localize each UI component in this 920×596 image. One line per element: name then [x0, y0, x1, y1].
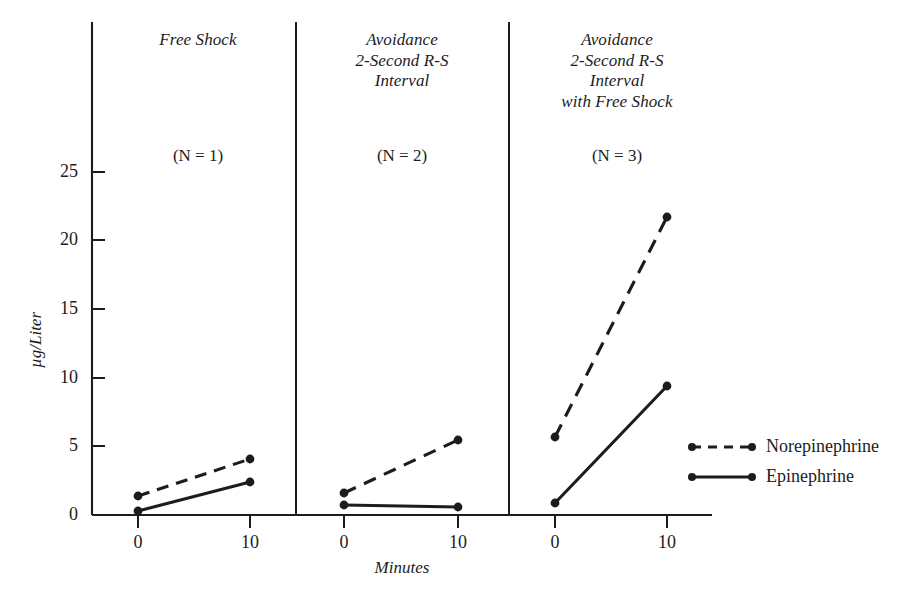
panel-1-title: Free Shock: [118, 30, 278, 51]
x-axis-label: Minutes: [322, 558, 482, 579]
x-tick-label-p2-10: 10: [438, 532, 478, 554]
y-tick-label-25: 25: [36, 161, 78, 183]
y-axis-label: µg/Liter: [26, 280, 47, 400]
legend-glyphs: [688, 443, 756, 481]
y-axis-ticks: [92, 172, 105, 515]
panel-1-norepinephrine-line: [138, 459, 250, 496]
panel-2-norepinephrine-point-10: [454, 436, 463, 445]
legend-epinephrine-marker-left: [688, 473, 696, 481]
panel-3-norepinephrine-point-10: [663, 213, 672, 222]
panel-2-series: [340, 436, 463, 512]
chart-figure: Free Shock (N = 1) Avoidance 2-Second R-…: [0, 0, 920, 596]
panel-3-title-line-4: with Free Shock: [524, 92, 710, 113]
panel-2-norepinephrine-line: [344, 440, 458, 493]
legend-norepinephrine-marker-left: [688, 443, 696, 451]
panel-1-norepinephrine-point-0: [134, 492, 143, 501]
y-tick-label-5: 5: [36, 435, 78, 457]
panel-2-epinephrine-point-10: [454, 503, 463, 512]
panel-3-epinephrine-point-0: [551, 499, 560, 508]
panel-2-title: Avoidance 2-Second R-S Interval: [318, 30, 486, 92]
panel-3-title: Avoidance 2-Second R-S Interval with Fre…: [524, 30, 710, 113]
panel-3-title-line-2: 2-Second R-S: [524, 51, 710, 72]
panel-2-norepinephrine-point-0: [340, 489, 349, 498]
panel-2-n-label: (N = 2): [318, 146, 486, 167]
panel-2-title-line-1: Avoidance: [318, 30, 486, 51]
panel-3-epinephrine-point-10: [663, 382, 672, 391]
panel-1-epinephrine-point-10: [246, 478, 255, 487]
panel-2-title-line-2: 2-Second R-S: [318, 51, 486, 72]
x-tick-label-p2-0: 0: [324, 532, 364, 554]
x-tick-label-p1-0: 0: [118, 532, 158, 554]
panel-2-epinephrine-line: [344, 505, 458, 507]
panel-dividers: [296, 22, 509, 515]
x-axis-ticks: [138, 515, 667, 528]
panel-3-norepinephrine-point-0: [551, 433, 560, 442]
y-tick-label-20: 20: [36, 229, 78, 251]
panel-3-series: [551, 213, 672, 508]
legend-norepinephrine-marker-right: [748, 443, 756, 451]
legend-label-norepinephrine: Norepinephrine: [766, 436, 879, 458]
y-tick-label-0: 0: [36, 504, 78, 526]
x-tick-label-p1-10: 10: [230, 532, 270, 554]
panel-1-title-line-1: Free Shock: [118, 30, 278, 51]
panel-2-epinephrine-point-0: [340, 501, 349, 510]
panel-3-epinephrine-line: [555, 386, 667, 503]
legend-label-epinephrine: Epinephrine: [766, 466, 854, 488]
panel-3-n-label: (N = 3): [524, 146, 710, 167]
panel-1-norepinephrine-point-10: [246, 455, 255, 464]
panel-1-epinephrine-point-0: [134, 507, 143, 516]
legend-epinephrine-marker-right: [748, 473, 756, 481]
panel-1-epinephrine-line: [138, 482, 250, 511]
x-tick-label-p3-0: 0: [535, 532, 575, 554]
panel-3-title-line-3: Interval: [524, 71, 710, 92]
panel-1-n-label: (N = 1): [118, 146, 278, 167]
panel-2-title-line-3: Interval: [318, 71, 486, 92]
panel-3-title-line-1: Avoidance: [524, 30, 710, 51]
x-tick-label-p3-10: 10: [647, 532, 687, 554]
panel-1-series: [134, 455, 255, 516]
